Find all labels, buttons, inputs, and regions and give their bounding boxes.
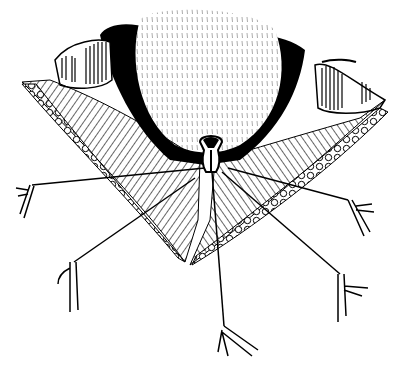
left-skin-flap: [55, 40, 112, 88]
central-structure: [200, 136, 222, 172]
surgical-illustration: [0, 0, 398, 368]
right-skin-flap: [315, 60, 385, 114]
